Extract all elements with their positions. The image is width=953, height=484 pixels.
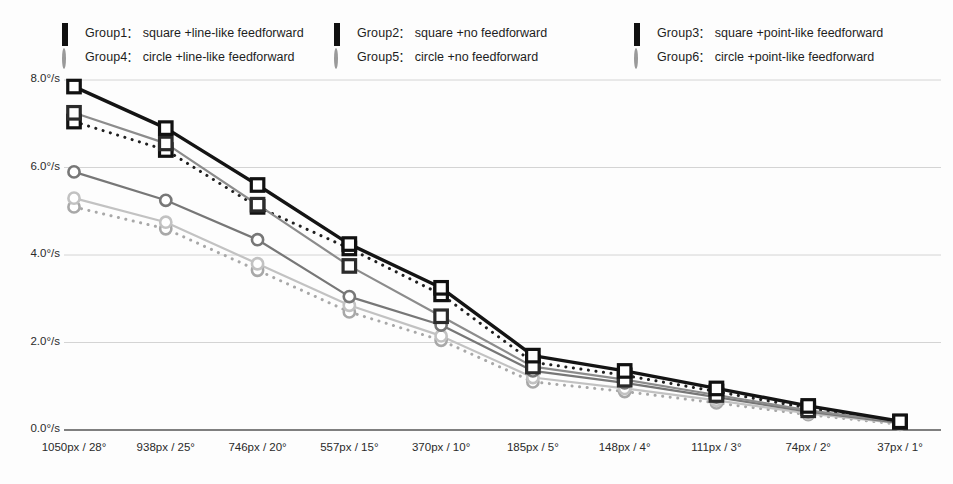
data-point-marker[interactable] — [68, 166, 79, 177]
y-axis-tick-label: 0.0°/s — [14, 422, 60, 434]
data-point-marker[interactable] — [710, 382, 723, 395]
data-point-marker[interactable] — [160, 137, 173, 150]
data-point-marker[interactable] — [160, 217, 171, 228]
chart-canvas — [0, 0, 953, 484]
series-line-group1 — [74, 87, 900, 422]
data-point-marker[interactable] — [252, 258, 263, 269]
data-point-marker[interactable] — [344, 291, 355, 302]
series-line-group6 — [74, 207, 900, 424]
data-point-marker[interactable] — [68, 107, 81, 120]
line-chart — [0, 0, 953, 484]
x-axis-tick-label: 938px / 25° — [137, 441, 195, 453]
x-axis-tick-label: 370px / 10° — [412, 441, 470, 453]
data-point-marker[interactable] — [435, 310, 448, 323]
data-point-marker[interactable] — [343, 260, 356, 273]
data-point-marker[interactable] — [894, 415, 907, 428]
series-markers-group2 — [68, 107, 907, 429]
x-axis-tick-label: 37px / 1° — [877, 441, 923, 453]
x-axis-tick-label: 111px / 3° — [691, 441, 741, 453]
data-point-marker[interactable] — [251, 179, 263, 192]
y-axis-tick-label: 2.0°/s — [14, 335, 60, 347]
x-axis-tick-label: 74px / 2° — [785, 441, 831, 453]
x-axis-tick-label: 746px / 20° — [228, 441, 286, 453]
series-line-group2 — [74, 113, 900, 422]
chart-page: Group1 : square +line-like feedforward G… — [0, 0, 953, 484]
data-point-marker[interactable] — [160, 122, 173, 135]
data-point-marker[interactable] — [618, 365, 631, 378]
series-line-group4 — [74, 172, 900, 423]
x-axis-tick-label: 185px / 5° — [507, 441, 559, 453]
series-markers-group4 — [68, 166, 905, 428]
data-point-marker[interactable] — [527, 349, 540, 362]
data-point-marker[interactable] — [68, 193, 79, 204]
series-markers-group1 — [68, 80, 907, 427]
data-point-marker[interactable] — [343, 238, 356, 251]
x-axis-tick-label: 148px / 4° — [599, 441, 651, 453]
series-line-group3 — [74, 122, 900, 423]
data-point-marker[interactable] — [436, 330, 447, 341]
data-point-marker[interactable] — [160, 195, 171, 206]
data-point-marker[interactable] — [251, 198, 263, 211]
data-point-marker[interactable] — [68, 80, 81, 93]
y-axis-tick-label: 8.0°/s — [14, 72, 60, 84]
series-line-group5 — [74, 198, 900, 423]
x-axis-tick-label: 557px / 15° — [320, 441, 378, 453]
x-axis-tick-label: 1050px / 28° — [42, 441, 107, 453]
data-point-marker[interactable] — [802, 400, 815, 413]
y-axis-tick-label: 4.0°/s — [14, 247, 60, 259]
series-markers-group5 — [68, 193, 905, 430]
data-point-marker[interactable] — [252, 234, 263, 245]
data-point-marker[interactable] — [435, 282, 448, 295]
y-axis-tick-label: 6.0°/s — [14, 160, 60, 172]
